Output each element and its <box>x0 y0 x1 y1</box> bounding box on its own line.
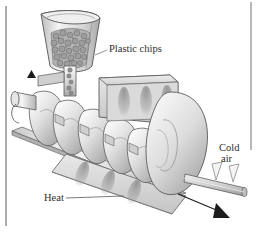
feed-hopper <box>41 11 100 72</box>
heat-label: Heat <box>44 192 64 203</box>
cold-air-label-line2: air <box>221 153 232 165</box>
plastic-chips-label: Plastic chips <box>109 43 162 54</box>
plastic-chips-leader <box>95 50 107 55</box>
extrudate-direction-arrow <box>178 194 230 218</box>
plastic-chips-pile <box>51 29 91 69</box>
cold-air-label-line1: Cold <box>219 142 239 154</box>
cold-air-arrows <box>212 162 239 182</box>
illustration-canvas: Plastic chips Cold air Heat <box>0 0 257 241</box>
heat-leader <box>66 196 124 198</box>
extruder-diagram <box>0 0 257 241</box>
screw-rotation-arrow <box>27 70 36 78</box>
